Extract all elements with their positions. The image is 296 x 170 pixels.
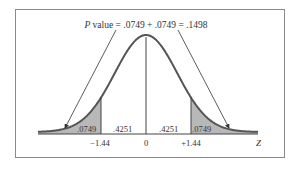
right-tail-area-label: .0749 <box>192 124 211 134</box>
left-center-area-label: .4251 <box>113 124 132 134</box>
tick-label-pos-1-44: +1.44 <box>181 138 201 148</box>
p-value-expression: value = .0749 + .0749 = .1498 <box>90 20 208 30</box>
tick-label-neg-1-44: −1.44 <box>90 138 110 148</box>
figure-frame <box>16 10 285 158</box>
left-tail-area-label: .0749 <box>77 124 96 134</box>
tick-label-0: 0 <box>144 138 148 148</box>
right-center-area-label: .4251 <box>159 124 178 134</box>
p-value-title: P value = .0749 + .0749 = .1498 <box>83 20 207 30</box>
normal-distribution-figure: P value = .0749 + .0749 = .1498 .0749 .4… <box>0 0 296 170</box>
